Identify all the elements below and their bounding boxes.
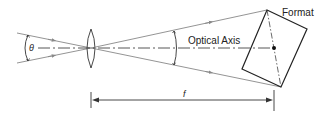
ray-arrow-icon bbox=[205, 22, 211, 23]
format-label: Format bbox=[282, 7, 314, 18]
outgoing-rays bbox=[91, 10, 281, 87]
ray-arrow-icon bbox=[48, 39, 54, 40]
dimension-arrow-left-icon bbox=[92, 98, 99, 103]
optical-axis-label: Optical Axis bbox=[188, 35, 240, 46]
theta-angle-arc bbox=[25, 35, 28, 61]
focal-length-label: f bbox=[183, 89, 187, 99]
ray-arrow-icon bbox=[48, 56, 54, 57]
format-center-point bbox=[272, 46, 276, 50]
dimension-arrow-right-icon bbox=[266, 98, 273, 103]
optics-diagram: θ Optical Axis Format f bbox=[0, 0, 328, 121]
theta-label: θ bbox=[29, 43, 34, 53]
ray-arrow-icon bbox=[205, 71, 211, 72]
